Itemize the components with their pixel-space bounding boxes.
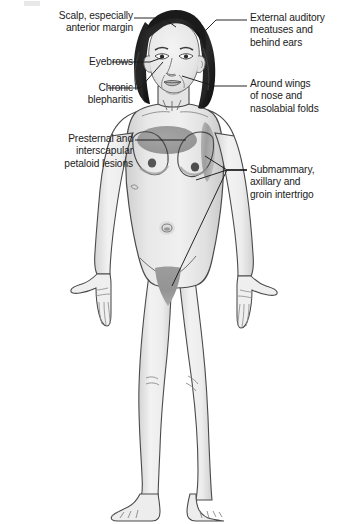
navel (159, 221, 175, 235)
right-nipple (191, 162, 199, 171)
anatomical-figure-diagram: Scalp, especially anterior margin Eyebro… (0, 0, 352, 524)
presternal-label: Presternal and interscapular petaloid le… (2, 133, 133, 170)
scalp-label-line1: Scalp, especially (8, 10, 133, 22)
auditory-label-line1: External auditory (250, 12, 350, 24)
head-group (134, 10, 215, 109)
intertrigo-label: Submammary, axillary and groin intertrig… (250, 164, 350, 201)
left-hand (71, 274, 111, 326)
left-nipple (148, 158, 156, 167)
nose-label-line3: nasolabial folds (250, 103, 350, 115)
scalp-label-line2: anterior margin (8, 22, 133, 34)
blepharitis-label-line2: blepharitis (8, 94, 133, 106)
nasolabial-label: Around wings of nose and nasolabial fold… (250, 78, 350, 115)
chronic-blepharitis-label: Chronic blepharitis (8, 82, 133, 107)
auditory-label-line3: behind ears (250, 37, 350, 49)
eyebrows-label: Eyebrows (8, 56, 133, 68)
right-hand (237, 276, 277, 328)
nose-label-line1: Around wings (250, 78, 350, 90)
blepharitis-label-line1: Chronic (8, 82, 133, 94)
legs (111, 268, 224, 521)
eyebrows-label-line1: Eyebrows (8, 56, 133, 68)
presternal-label-line3: petaloid lesions (2, 158, 133, 170)
presternal-label-line2: interscapular (2, 145, 133, 157)
nose-label-line2: of nose and (250, 90, 350, 102)
external-auditory-label: External auditory meatuses and behind ea… (250, 12, 350, 49)
intertrigo-label-line2: axillary and (250, 176, 350, 188)
presternal-label-line1: Presternal and (2, 133, 133, 145)
intertrigo-label-line1: Submammary, (250, 164, 350, 176)
intertrigo-label-line3: groin intertrigo (250, 189, 350, 201)
scalp-label: Scalp, especially anterior margin (8, 10, 133, 35)
auditory-label-line2: meatuses and (250, 24, 350, 36)
